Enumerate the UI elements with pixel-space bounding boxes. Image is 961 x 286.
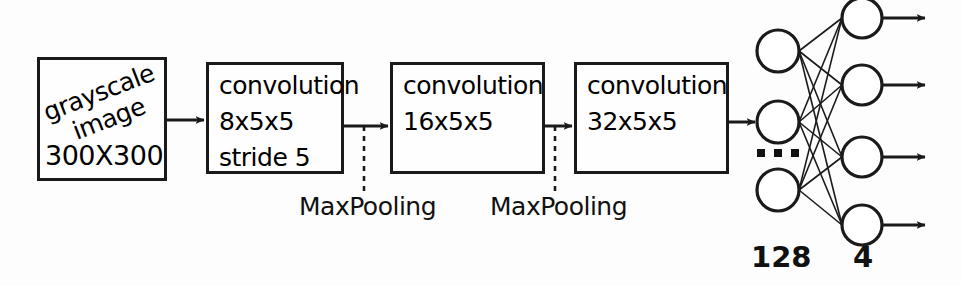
output-node [842,65,882,105]
dense-layer-size-label: 128 [751,240,812,274]
conv-block-2: convolution 16x5x5 [390,62,545,174]
dense-node [757,101,799,143]
conv-block-1-line-3: stride 5 [219,143,359,172]
input-image-block: grayscale image 300X300 [37,57,167,181]
conv-block-1-line-1: convolution [219,71,359,100]
conv-block-3-text: convolution 32x5x5 [587,71,727,143]
conv-block-2-line-1: convolution [403,71,543,100]
output-layer-4-nodes [842,0,882,245]
output-node [842,205,882,245]
input-dimensions-label: 300X300 [45,140,163,171]
conv-block-2-line-2: 16x5x5 [403,107,543,136]
output-arrows [883,18,925,225]
maxpooling-label-1: MaxPooling [299,192,436,221]
maxpooling-label-2: MaxPooling [490,192,627,221]
conv-block-1-text: convolution 8x5x5 stride 5 [219,71,359,179]
output-layer-size-label: 4 [853,240,873,274]
conv-block-1: convolution 8x5x5 stride 5 [206,62,344,174]
ellipsis-dot [791,149,799,157]
output-node [842,0,882,38]
dense-layer-128-nodes [757,30,799,211]
conv-block-3-line-2: 32x5x5 [587,107,727,136]
conv-block-3-line-1: convolution [587,71,727,100]
ellipsis-dot [774,149,782,157]
ellipsis-dot [757,149,765,157]
conv-block-2-text: convolution 16x5x5 [403,71,543,143]
conv-block-3: convolution 32x5x5 [574,62,729,174]
dense-node [757,30,799,72]
cnn-architecture-diagram: grayscale image 300X300 convolution 8x5x… [0,0,961,286]
conv-block-1-line-2: 8x5x5 [219,107,359,136]
dense-connection-edges [799,18,842,225]
dense-node [757,169,799,211]
output-node [842,137,882,177]
